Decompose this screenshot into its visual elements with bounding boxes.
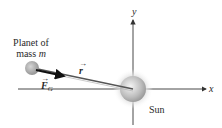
force-label: FG bbox=[41, 80, 53, 95]
planet-label-line1: Planet of bbox=[6, 37, 56, 48]
sun-label: Sun bbox=[149, 104, 165, 115]
x-axis-label: x bbox=[209, 83, 213, 94]
mass-symbol: m bbox=[39, 48, 46, 59]
planet-icon bbox=[25, 61, 39, 75]
y-axis-label: y bbox=[132, 6, 136, 17]
diagram-canvas bbox=[0, 0, 222, 128]
position-vector-label: r bbox=[79, 65, 83, 76]
planet-label: Planet of mass m bbox=[6, 37, 56, 59]
gravitation-diagram: Planet of mass m r FG Sun x y bbox=[0, 0, 222, 128]
planet-label-line2: mass m bbox=[6, 48, 56, 59]
